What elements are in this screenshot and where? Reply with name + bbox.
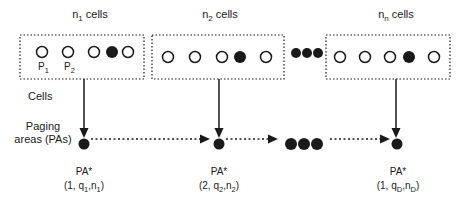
ellipsis-dot bbox=[313, 48, 323, 58]
pa2-tuple: (2, q2,n2) bbox=[199, 180, 239, 194]
pa-node-1 bbox=[79, 139, 90, 150]
cell-circle bbox=[123, 47, 134, 58]
cell-circle-filled bbox=[403, 51, 415, 63]
ellipsis-dot bbox=[291, 48, 301, 58]
pa-node-d bbox=[392, 139, 403, 150]
group2-title: n2 cells bbox=[202, 8, 238, 23]
pad-tuple: (1, qD,nD) bbox=[377, 180, 420, 194]
group1-title: n1 cells bbox=[72, 8, 108, 23]
cell-circle bbox=[163, 52, 174, 63]
cell-circle bbox=[89, 47, 100, 58]
arrowhead-down-icon bbox=[392, 128, 401, 138]
pa1-tuple: (1, q1,n1) bbox=[64, 180, 104, 194]
pa1-name: PA* bbox=[76, 166, 93, 177]
arrowhead-down-icon bbox=[80, 128, 89, 138]
cell-circle bbox=[360, 52, 371, 63]
cell-circle bbox=[217, 52, 228, 63]
pa-node-2 bbox=[214, 139, 225, 150]
cell-circle-filled bbox=[234, 51, 246, 63]
ellipsis-dot bbox=[311, 138, 323, 150]
paging-areas-label-line2: areas (PAs) bbox=[14, 133, 71, 145]
pad-name: PA* bbox=[390, 166, 407, 177]
cell-circle-filled bbox=[106, 46, 118, 58]
cell-circle bbox=[335, 52, 346, 63]
paging-areas-label-line1: Paging bbox=[26, 120, 60, 132]
arrowhead-down-icon bbox=[215, 128, 224, 138]
arrowhead-right-icon bbox=[380, 135, 390, 144]
arrowhead-right-icon bbox=[200, 135, 210, 144]
diagram-svg: n1 cells n2 cells nn cells P1 P2 Cells P… bbox=[0, 0, 467, 200]
groupN-title: nn cells bbox=[378, 8, 414, 23]
cell-circle bbox=[385, 52, 396, 63]
ellipsis-dot bbox=[285, 138, 297, 150]
paging-area-diagram: n1 cells n2 cells nn cells P1 P2 Cells P… bbox=[0, 0, 467, 200]
cell-label-p2: P2 bbox=[64, 61, 75, 75]
cell-circle bbox=[63, 47, 74, 58]
arrowhead-right-icon bbox=[268, 135, 278, 144]
cell-circle bbox=[261, 52, 272, 63]
cell-label-p1: P1 bbox=[38, 61, 49, 75]
ellipsis-dot bbox=[302, 48, 312, 58]
cells-label: Cells bbox=[28, 90, 53, 102]
pa2-name: PA* bbox=[211, 166, 228, 177]
ellipsis-dot bbox=[298, 138, 310, 150]
cell-circle bbox=[37, 47, 48, 58]
cell-circle bbox=[190, 52, 201, 63]
cell-circle bbox=[429, 52, 440, 63]
